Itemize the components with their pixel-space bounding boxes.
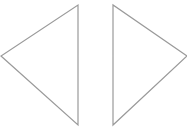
triangle-left-icon [0,0,80,131]
triangle-right-icon [107,0,187,131]
previous-button[interactable]: Previous [0,0,80,131]
next-button[interactable]: Next [107,0,187,131]
